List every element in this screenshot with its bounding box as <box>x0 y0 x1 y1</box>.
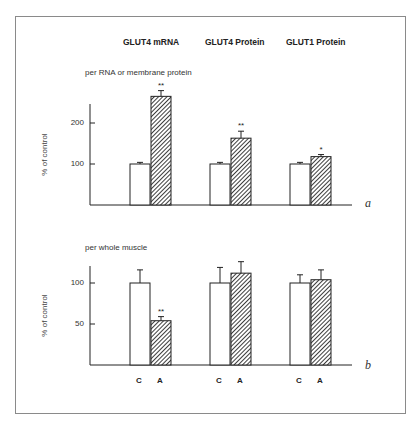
bar-control <box>290 283 310 365</box>
significance-marker: ** <box>238 121 244 130</box>
bar-treated <box>151 96 171 205</box>
bar-control <box>130 164 150 205</box>
bar-charts: ***** ** <box>0 0 420 430</box>
bar-treated <box>311 157 331 205</box>
bar-control <box>210 283 230 365</box>
bar-control <box>210 164 230 205</box>
bar-treated <box>151 321 171 365</box>
panel-b-chart: ** <box>90 262 352 365</box>
bar-treated <box>311 280 331 365</box>
bar-treated <box>231 273 251 365</box>
significance-marker: ** <box>158 81 164 90</box>
bar-treated <box>231 138 251 205</box>
bar-control <box>130 283 150 365</box>
bar-control <box>290 164 310 205</box>
significance-marker: ** <box>158 307 164 316</box>
significance-marker: * <box>319 145 322 154</box>
panel-a-chart: ***** <box>90 81 352 205</box>
